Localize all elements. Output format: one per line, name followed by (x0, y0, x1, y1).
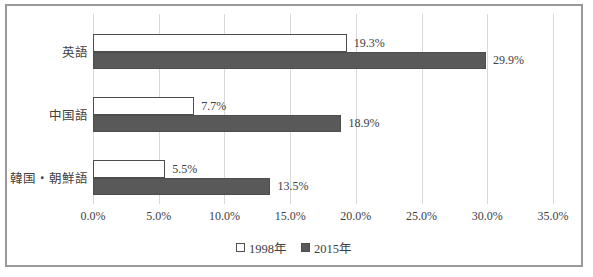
value-label: 5.5% (172, 160, 197, 178)
value-label: 18.9% (348, 115, 379, 132)
category-label: 英語 (7, 34, 88, 69)
bar-chart-figure: { "chart_data": { "type": "bar", "orient… (0, 0, 593, 277)
x-tick-label: 10.0% (209, 209, 240, 224)
legend-label-1998: 1998年 (249, 238, 287, 257)
x-tick-label: 25.0% (406, 209, 437, 224)
bar (93, 34, 347, 52)
bar (93, 178, 270, 195)
chart-frame: 19.3%29.9%7.7%18.9%5.5%13.5% 英語中国語韓国・朝鮮語… (5, 4, 583, 267)
value-label: 29.9% (493, 52, 524, 69)
value-label: 7.7% (201, 97, 226, 115)
legend-swatch-2015-icon (301, 243, 310, 252)
legend: 1998年 2015年 (7, 238, 581, 256)
gridline (422, 14, 423, 204)
legend-label-2015: 2015年 (314, 238, 352, 257)
category-label: 韓国・朝鮮語 (7, 160, 88, 195)
bar (93, 160, 165, 178)
bar (93, 97, 194, 115)
bar (93, 115, 341, 132)
gridline (553, 14, 554, 204)
value-label: 13.5% (277, 178, 308, 195)
x-tick-label: 35.0% (538, 209, 569, 224)
gridline (487, 14, 488, 204)
legend-item-1998: 1998年 (236, 238, 287, 257)
legend-item-2015: 2015年 (301, 238, 352, 257)
plot-area: 19.3%29.9%7.7%18.9%5.5%13.5% 英語中国語韓国・朝鮮語… (7, 6, 581, 265)
x-tick-label: 0.0% (81, 209, 106, 224)
category-label: 中国語 (7, 97, 88, 132)
value-label: 19.3% (354, 34, 385, 52)
x-tick-label: 20.0% (340, 209, 371, 224)
x-tick-label: 15.0% (275, 209, 306, 224)
x-tick-label: 30.0% (472, 209, 503, 224)
bar (93, 52, 486, 69)
legend-swatch-1998-icon (236, 243, 245, 252)
x-tick-label: 5.0% (146, 209, 171, 224)
